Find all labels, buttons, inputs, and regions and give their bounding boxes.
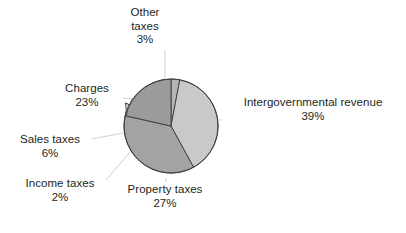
slice-value-property-taxes: 27% bbox=[110, 197, 220, 211]
slice-value-income-taxes: 2% bbox=[8, 191, 112, 205]
slice-value-sales-taxes: 6% bbox=[4, 147, 96, 161]
slice-label-other-taxes: Other taxes 3% bbox=[101, 6, 189, 47]
slice-label-sales-taxes-text: Sales taxes bbox=[4, 133, 96, 147]
slice-label-income-taxes-text: Income taxes bbox=[8, 177, 112, 191]
slice-label-charges-text: Charges bbox=[47, 82, 127, 96]
slice-label-property-taxes: Property taxes 27% bbox=[110, 183, 220, 210]
slice-label-other-taxes-line2: taxes bbox=[101, 20, 189, 34]
slice-label-property-taxes-text: Property taxes bbox=[110, 183, 220, 197]
slice-label-intergovernmental-revenue-text: Intergovernmental revenue bbox=[223, 96, 403, 110]
slice-value-charges: 23% bbox=[47, 96, 127, 110]
slice-label-charges: Charges 23% bbox=[47, 82, 127, 109]
slice-label-income-taxes: Income taxes 2% bbox=[8, 177, 112, 204]
slice-label-sales-taxes: Sales taxes 6% bbox=[4, 133, 96, 160]
slice-label-intergovernmental-revenue: Intergovernmental revenue 39% bbox=[223, 96, 403, 123]
pie-chart-figure: Other taxes 3% Charges 23% Sales taxes 6… bbox=[0, 0, 406, 233]
slice-label-other-taxes-line1: Other bbox=[101, 6, 189, 20]
slice-value-other-taxes: 3% bbox=[101, 33, 189, 47]
slice-value-intergovernmental-revenue: 39% bbox=[223, 110, 403, 124]
